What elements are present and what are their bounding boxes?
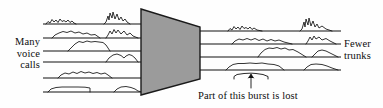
input-burst-5a [48,87,90,92]
input-burst-2a [68,41,110,51]
output-burst-3a [226,63,284,70]
burst-loss-caption: Part of this burst is lost [198,90,298,102]
concentrator-funnel [141,9,200,95]
input-burst-4a [58,72,112,79]
input-burst-1b [106,30,138,39]
input-burst-5b [114,87,142,93]
diagram-svg [0,0,383,108]
output-burst-1a [232,39,292,45]
output-burst-0a [228,26,262,31]
left-label-line-1: Many [2,36,40,48]
left-label-line-2: voice [2,48,40,60]
input-burst-0a [46,19,76,24]
input-burst-1a [52,31,100,38]
burst-loss-annotation [234,73,268,88]
left-label-line-3: calls [2,59,40,71]
right-label-line-1: Fewer [344,38,383,50]
input-burst-0b [104,12,130,24]
output-burst-3b [304,64,338,70]
right-label-line-2: trunks [344,50,383,62]
figure-canvas: Many voice calls Fewer trunks Part of th… [0,0,383,108]
right-label-fewer-trunks: Fewer trunks [344,38,383,61]
left-label-many-voice-calls: Many voice calls [2,36,40,71]
annotation-arrow-head [248,74,253,78]
input-burst-3a [106,54,138,62]
output-burst-1b [306,36,336,44]
output-burst-2a [258,48,306,58]
output-burst-0b [300,18,332,31]
output-burst-2b [312,50,338,57]
